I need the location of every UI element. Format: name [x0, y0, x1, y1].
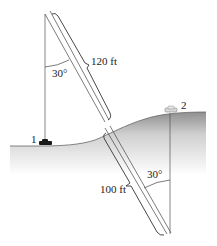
car-2-icon	[165, 106, 177, 112]
upper-angle-label: 30°	[52, 67, 67, 79]
upper-length-label: 120 ft	[91, 55, 117, 67]
point-1-label: 1	[31, 133, 37, 145]
upper-angle-arc	[45, 60, 69, 67]
point-2-label: 2	[181, 99, 187, 111]
lower-length-label: 100 ft	[100, 183, 126, 195]
lower-angle-arc	[144, 180, 170, 188]
car-1-icon	[39, 139, 52, 145]
lower-angle-label: 30°	[147, 168, 162, 180]
diagram-canvas: 120 ft 30° 100 ft 30° 1 2	[0, 0, 217, 246]
